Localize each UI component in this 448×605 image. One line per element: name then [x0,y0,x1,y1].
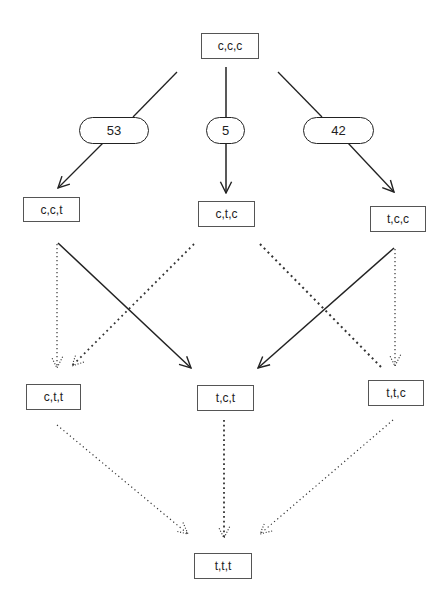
edge-cct-tct [58,243,191,368]
node-ttt: t,t,t [194,553,252,579]
edges-layer [0,0,448,605]
edge-tcc-tct [258,248,394,368]
node-tcc: t,c,c [370,206,426,232]
node-ttc: t,t,c [368,380,424,406]
node-cct: c,c,t [23,197,80,222]
edge-ctc-ctt [72,244,194,366]
edge-label-5: 5 [206,117,245,144]
edge-ttc-ttt [260,420,393,534]
node-tct: t,c,t [197,385,254,411]
node-ctc: c,t,c [198,201,255,227]
node-ccc: c,c,c [201,33,259,59]
edge-label-53: 53 [79,117,149,144]
edge-ctt-ttt [57,425,188,534]
node-ctt: c,t,t [26,384,81,410]
edge-label-42: 42 [303,117,374,144]
